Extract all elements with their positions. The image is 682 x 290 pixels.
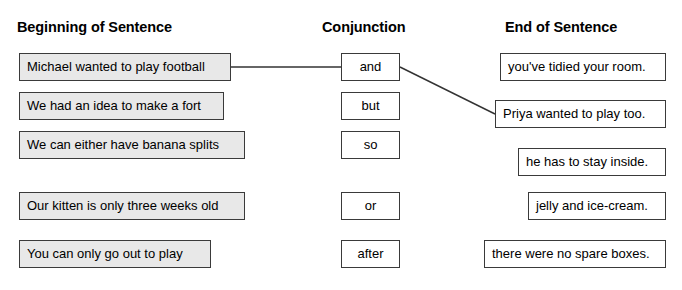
conjunction-card-label: but bbox=[361, 99, 379, 113]
sentence-beginning-card-label: We had an idea to make a fort bbox=[27, 99, 201, 113]
sentence-beginning-card-label: We can either have banana splits bbox=[27, 138, 219, 152]
sentence-ending-card-label: Priya wanted to play too. bbox=[503, 107, 645, 121]
sentence-ending-card-label: there were no spare boxes. bbox=[492, 247, 650, 261]
conjunction-card-label: and bbox=[360, 60, 382, 74]
matching-worksheet: Beginning of Sentence Conjunction End of… bbox=[0, 0, 682, 290]
conjunction-card[interactable]: but bbox=[341, 92, 400, 120]
conjunction-card-label: after bbox=[357, 247, 383, 261]
conjunction-card[interactable]: after bbox=[341, 240, 400, 268]
sentence-ending-card[interactable]: there were no spare boxes. bbox=[484, 240, 666, 268]
sentence-beginning-card[interactable]: Our kitten is only three weeks old bbox=[19, 192, 245, 220]
sentence-beginning-card[interactable]: We can either have banana splits bbox=[19, 131, 245, 159]
sentence-ending-card[interactable]: you've tidied your room. bbox=[500, 53, 666, 81]
sentence-ending-card[interactable]: Priya wanted to play too. bbox=[495, 100, 666, 128]
conjunction-card[interactable]: so bbox=[341, 131, 400, 159]
sentence-beginning-card-label: Our kitten is only three weeks old bbox=[27, 199, 218, 213]
sentence-beginning-card[interactable]: We had an idea to make a fort bbox=[19, 92, 224, 120]
conjunction-card[interactable]: or bbox=[341, 192, 400, 220]
sentence-ending-card-label: you've tidied your room. bbox=[508, 60, 646, 74]
conjunction-card-label: so bbox=[364, 138, 378, 152]
conjunction-card-label: or bbox=[365, 199, 377, 213]
sentence-ending-card[interactable]: he has to stay inside. bbox=[518, 148, 666, 176]
column-heading-ending: End of Sentence bbox=[505, 19, 617, 35]
sentence-beginning-card-label: You can only go out to play bbox=[27, 247, 183, 261]
column-heading-beginning: Beginning of Sentence bbox=[17, 19, 172, 35]
sentence-ending-card[interactable]: jelly and ice-cream. bbox=[528, 192, 666, 220]
sentence-ending-card-label: jelly and ice-cream. bbox=[536, 199, 648, 213]
sentence-beginning-card[interactable]: You can only go out to play bbox=[19, 240, 211, 268]
column-heading-conjunction: Conjunction bbox=[322, 19, 405, 35]
sentence-ending-card-label: he has to stay inside. bbox=[526, 155, 648, 169]
sentence-beginning-card-label: Michael wanted to play football bbox=[27, 60, 205, 74]
match-connector-line[interactable] bbox=[400, 67, 495, 114]
conjunction-card[interactable]: and bbox=[341, 53, 400, 81]
sentence-beginning-card[interactable]: Michael wanted to play football bbox=[19, 53, 231, 81]
